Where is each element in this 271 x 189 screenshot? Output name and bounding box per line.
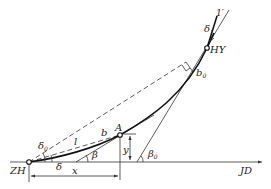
spiral-curve-diagram: ZH HY JD A x y l b δ β δ0 β0 b0 δ1 1′ [0,0,271,189]
label-beta0: β0 [147,148,158,160]
label-zh: ZH [9,165,26,176]
label-l: l [74,136,77,147]
label-delta: δ [56,161,62,172]
label-a: A [114,122,122,133]
label-delta1: δ1 [204,23,214,35]
spiral-curve [29,33,214,162]
beta0-arc [141,156,143,162]
label-jd: JD [238,165,252,176]
label-b: b [101,127,107,138]
label-b0: b0 [196,67,206,79]
label-delta0: δ0 [38,140,48,152]
label-hy: HY [209,44,227,55]
label-y: y [122,144,129,155]
point-zh [27,160,32,165]
point-hy [205,46,210,51]
point-a [118,133,123,138]
long-chord-dashed [29,62,186,162]
delta0-arc [43,153,45,162]
label-one-prime: 1′ [216,8,224,18]
label-beta: β [91,149,98,160]
beta-arc [86,155,88,162]
label-x: x [72,165,78,176]
